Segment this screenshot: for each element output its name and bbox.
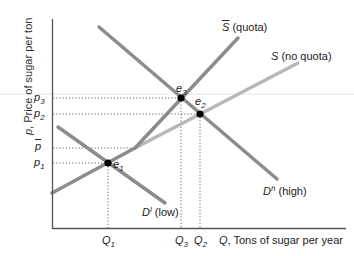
y-axis-text: , Price of sugar per ton: [22, 18, 34, 129]
label-supply-no-quota-text: (no quota): [278, 50, 331, 62]
label-e3-sub: 3: [182, 88, 186, 97]
tick-q2: Q2: [194, 235, 207, 246]
tick-p2: p2: [34, 108, 45, 119]
tick-q1-sub: 1: [111, 240, 115, 249]
tick-q3-base: Q: [175, 234, 184, 246]
demand-low-curve: [58, 127, 165, 203]
tick-q2-base: Q: [194, 234, 203, 246]
y-axis-var: p: [22, 129, 34, 135]
tick-q3-sub: 3: [184, 240, 188, 249]
label-e1-sub: 1: [119, 164, 123, 173]
supply-no-quota-curve: [135, 63, 298, 148]
label-e3: e3: [176, 83, 187, 94]
tick-q3: Q3: [175, 235, 188, 246]
equilibrium-e2-dot: [196, 110, 203, 117]
x-axis-label: Q, Tons of sugar per year: [219, 235, 343, 246]
label-supply-quota: S (quota): [222, 22, 267, 33]
label-e2-sub: 2: [201, 101, 205, 110]
label-demand-high: Dh (high): [263, 186, 307, 197]
tick-pbar: p: [35, 141, 41, 152]
x-axis-var: Q: [219, 234, 228, 246]
label-demand-low-base: D: [142, 206, 150, 218]
label-demand-low-sup: l: [150, 205, 152, 214]
label-demand-high-base: D: [263, 185, 271, 197]
demand-high-curve: [99, 27, 277, 179]
tick-p2-sub: 2: [40, 113, 44, 122]
tick-p3-sub: 3: [40, 97, 44, 106]
label-demand-low: Dl (low): [142, 207, 179, 218]
label-supply-quota-text: (quota): [229, 21, 267, 33]
y-axis-label: p, Price of sugar per ton: [22, 18, 34, 135]
tick-p1: p1: [34, 157, 45, 168]
label-e1: e1: [113, 159, 124, 170]
tick-q2-sub: 2: [203, 240, 207, 249]
label-demand-low-text: (low): [152, 206, 179, 218]
label-demand-high-sup: h: [271, 184, 275, 193]
label-supply-no-quota: S (no quota): [271, 51, 332, 62]
equilibrium-e1-dot: [104, 159, 111, 166]
tick-p3: p3: [34, 92, 45, 103]
supply-quota-curve: [52, 38, 238, 193]
tick-p1-sub: 1: [40, 162, 44, 171]
tick-pbar-base: p: [35, 140, 41, 152]
tick-q1-base: Q: [102, 234, 111, 246]
tick-q1: Q1: [102, 235, 115, 246]
label-demand-high-text: (high): [275, 185, 306, 197]
label-e2: e2: [195, 96, 206, 107]
x-axis-text: , Tons of sugar per year: [228, 234, 343, 246]
